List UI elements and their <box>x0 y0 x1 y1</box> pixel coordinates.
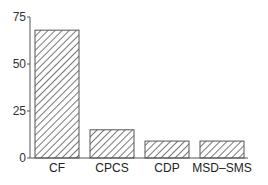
x-axis: CFCPCSCDPMSD–SMS <box>30 158 252 175</box>
bar-msd-sms <box>200 141 244 158</box>
x-tick-label: CDP <box>154 161 179 175</box>
x-tick-label: MSD–SMS <box>192 161 251 175</box>
y-tick-label: 25 <box>13 104 27 118</box>
bar-chart: 0255075 CFCPCSCDPMSD–SMS <box>0 0 268 185</box>
x-tick-label: CPCS <box>95 161 128 175</box>
bar-cdp <box>145 141 189 158</box>
y-tick-label: 50 <box>13 57 27 71</box>
bars <box>35 30 244 158</box>
x-tick-label: CF <box>49 161 65 175</box>
bar-cpcs <box>90 130 134 158</box>
bar-cf <box>35 30 79 158</box>
y-tick-label: 0 <box>19 151 26 165</box>
y-tick-label: 75 <box>13 10 27 24</box>
y-axis: 0255075 <box>13 10 30 165</box>
